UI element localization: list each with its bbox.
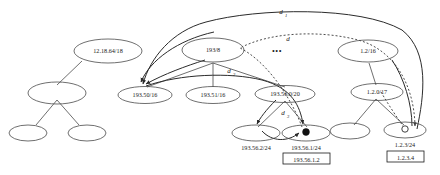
nodes: 12.18.64/18 193/8 193.50/16 (9, 38, 426, 151)
node-label: 193.50/16 (133, 91, 158, 98)
ellipsis-dots: ••• (272, 47, 282, 56)
node-label: 193.56.2/24 (241, 144, 271, 151)
node-193-50-16[interactable]: 193.50/16 (118, 87, 172, 104)
node-label: 193.51/16 (201, 91, 226, 98)
boxed-address-193-56-1-2: 193.56.1.2 (283, 153, 330, 164)
boxed-address-label: 193.56.1.2 (293, 156, 319, 163)
boxed-address-1-2-3-4: 1.2.3.4 (387, 151, 424, 162)
node-label: 1.2/16 (360, 47, 376, 54)
node-left-child[interactable] (28, 82, 86, 104)
arc-labels: d 1 d d 2 d 3 (227, 8, 290, 119)
node-193-51-16[interactable]: 193.51/16 (186, 87, 240, 104)
edge-1-2-16-to-1-2-0-17 (369, 63, 376, 85)
arc-label-d2-base: d (227, 67, 231, 75)
node-ellipse (232, 125, 280, 141)
node-left-grandchild-2[interactable] (68, 125, 106, 141)
arc-label-d3: d 3 (281, 109, 290, 119)
filled-host-dot[interactable] (303, 129, 310, 136)
boxed-addresses: 193.56.1.2 1.2.3.4 (283, 151, 424, 164)
edge-1-2-0-17-to-leaf1 (354, 99, 376, 125)
node-label: 1.2.0/17 (367, 88, 387, 95)
node-label: 193/8 (206, 46, 220, 53)
node-1-2-0-17[interactable]: 1.2.0/17 (351, 84, 403, 101)
node-ellipse (330, 123, 370, 139)
arc-label-d3-subscript: 3 (287, 114, 290, 119)
node-12-18-64-18[interactable]: 12.18.64/18 (74, 39, 142, 63)
arc-label-d1-base: d (279, 8, 283, 16)
node-label: 12.18.64/18 (93, 47, 123, 54)
diagram-canvas: 12.18.64/18 193/8 193.50/16 (0, 0, 440, 175)
node-193-56-0-20[interactable]: 193.56.0/20 (255, 86, 315, 103)
node-1-2-3-24[interactable]: 1.2.3/24 (384, 122, 426, 148)
arc-label-d3-base: d (281, 109, 285, 117)
node-right-leaf-empty[interactable] (330, 123, 370, 139)
hollow-host-dot[interactable] (402, 126, 408, 132)
arc-d2 (146, 75, 303, 124)
node-ellipse (9, 125, 47, 141)
node-ellipse (68, 125, 106, 141)
node-left-grandchild-1[interactable] (9, 125, 47, 141)
arc-d3 (262, 131, 299, 140)
node-label: 1.2.3/24 (395, 141, 415, 148)
node-label: 193.56.0/20 (270, 90, 300, 97)
node-ellipse (28, 82, 86, 104)
edge-193-8-to-193-50 (147, 63, 213, 87)
arc-label-d: d (286, 35, 290, 43)
boxed-address-label: 1.2.3.4 (397, 154, 414, 161)
arc-top-to-193-50 (141, 32, 214, 82)
arc-193-8-to-193-50-pointer (146, 60, 205, 84)
node-193-8[interactable]: 193/8 (182, 38, 244, 62)
arc-label-d1-subscript: 1 (285, 13, 287, 18)
pointer-arcs (141, 12, 423, 140)
edge-1-2-0-17-to-1-2-3-24 (376, 99, 404, 125)
edge-left-root-child (57, 61, 82, 85)
prefix-tree-diagram: 12.18.64/18 193/8 193.50/16 (0, 0, 440, 175)
node-label: 193.56.1/24 (291, 144, 321, 151)
arc-label-d1: d 1 (279, 8, 287, 18)
